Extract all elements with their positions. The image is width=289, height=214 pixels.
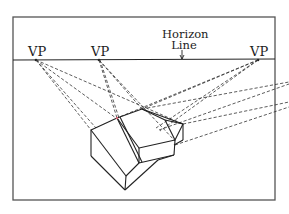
perspective-diagram: VP VP VP Horizon Line — [0, 0, 289, 214]
vp-left-label: VP — [28, 45, 47, 58]
box-object — [91, 109, 183, 190]
diagram-canvas — [0, 0, 289, 214]
vp-right-label: VP — [250, 45, 269, 58]
horizon-line — [13, 59, 275, 60]
accent-mark — [116, 117, 118, 119]
construction-lines-right-vp — [117, 60, 258, 131]
vp-middle-label: VP — [91, 45, 110, 58]
horizon-label-line2: Line — [162, 40, 206, 51]
construction-lines-offscreen — [142, 82, 289, 145]
horizon-line-label: Horizon Line — [162, 29, 206, 51]
